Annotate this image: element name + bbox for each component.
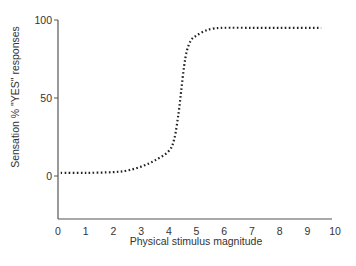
psychometric-chart: 050100 012345678910 Physical stimulus ma… <box>0 0 356 266</box>
x-tick-label: 1 <box>83 225 89 237</box>
y-tick-label: 0 <box>46 170 52 182</box>
y-tick-label: 50 <box>40 92 52 104</box>
axes <box>58 20 332 219</box>
x-tick-label: 2 <box>110 225 116 237</box>
y-axis-ticks: 050100 <box>34 14 58 182</box>
x-tick-label: 8 <box>277 225 283 237</box>
x-tick-label: 10 <box>329 225 341 237</box>
x-tick-label: 9 <box>304 225 310 237</box>
x-axis-title: Physical stimulus magnitude <box>130 235 263 247</box>
y-axis-title: Sensation % "YES" responses <box>9 26 21 168</box>
x-tick-label: 0 <box>55 225 61 237</box>
data-series-curve <box>61 28 321 173</box>
y-tick-label: 100 <box>34 14 52 26</box>
